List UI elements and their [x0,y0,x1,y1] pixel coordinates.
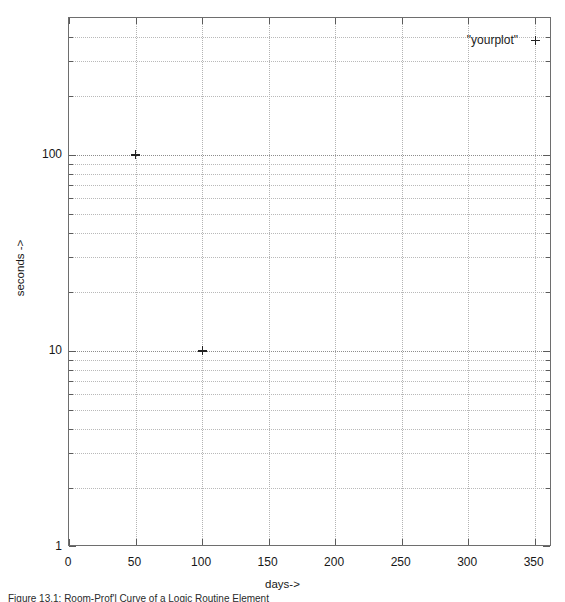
y-tick-minor-right [546,164,550,165]
gridline-horizontal-minor [69,164,550,165]
y-tick-major-right [543,546,550,547]
x-tick-top [269,18,270,24]
gridline-horizontal-minor [69,174,550,175]
y-tick-minor-right [546,453,550,454]
figure-caption: Figure 13.1: Room-Prof'l Curve of a Logi… [8,593,428,602]
x-tick-label: 300 [437,556,497,568]
gridline-horizontal-minor [69,453,550,454]
x-tick-label: 150 [238,556,298,568]
gridline-vertical [335,18,336,545]
gridline-horizontal-minor [69,292,550,293]
y-tick-minor [69,61,73,62]
legend: "yourplot" [467,33,540,47]
y-tick-minor [69,453,73,454]
y-tick-minor [69,381,73,382]
y-tick-minor-right [546,96,550,97]
gridline-vertical [402,18,403,545]
y-tick-minor-right [546,233,550,234]
y-tick-minor-right [546,360,550,361]
y-tick-label: 10 [6,344,62,356]
x-tick-bottom [269,539,270,545]
y-tick-minor [69,198,73,199]
data-point-plus-marker [131,150,140,159]
x-tick-top [69,18,70,24]
y-tick-minor-right [546,257,550,258]
gridline-horizontal-minor [69,429,550,430]
y-tick-major [69,351,76,352]
y-tick-label: 100 [6,148,62,160]
y-tick-minor [69,214,73,215]
y-tick-label: 1 [6,540,62,552]
gridline-horizontal-minor [69,381,550,382]
y-axis-title: seconds -> [14,213,26,323]
legend-entry-label: "yourplot" [467,33,518,47]
x-tick-label: 350 [504,556,564,568]
gridline-horizontal-minor [69,214,550,215]
gridline-vertical [136,18,137,545]
y-tick-minor-right [546,370,550,371]
x-axis-title: days-> [0,578,565,590]
gridline-vertical [535,18,536,545]
x-tick-label: 0 [38,556,98,568]
gridline-vertical [202,18,203,545]
y-tick-minor-right [546,410,550,411]
x-tick-label: 250 [371,556,431,568]
y-tick-minor [69,370,73,371]
data-point-plus-marker [198,346,207,355]
x-tick-label: 50 [105,556,165,568]
y-tick-minor [69,488,73,489]
gridline-horizontal-minor [69,394,550,395]
x-tick-top [402,18,403,24]
y-tick-minor-right [546,488,550,489]
y-tick-minor [69,96,73,97]
y-tick-minor [69,174,73,175]
y-tick-minor [69,360,73,361]
y-tick-major [69,155,76,156]
x-tick-label: 100 [171,556,231,568]
gridline-horizontal-minor [69,96,550,97]
y-tick-minor-right [546,198,550,199]
gridline-horizontal-minor [69,360,550,361]
figure-container: "yourplot" 110100 050100150200250300350 … [0,0,565,602]
gridline-horizontal-minor [69,233,550,234]
gridline-vertical [468,18,469,545]
x-tick-top [202,18,203,24]
y-tick-minor-right [546,61,550,62]
x-tick-bottom [335,539,336,545]
x-tick-bottom [468,539,469,545]
y-tick-major-right [543,351,550,352]
x-tick-label: 200 [304,556,364,568]
y-tick-minor [69,164,73,165]
gridline-horizontal-minor [69,61,550,62]
gridline-horizontal-minor [69,410,550,411]
x-tick-top [535,18,536,24]
gridline-horizontal-minor [69,198,550,199]
x-tick-bottom [69,539,70,545]
gridline-horizontal-minor [69,488,550,489]
y-tick-minor-right [546,185,550,186]
x-tick-top [335,18,336,24]
y-tick-minor [69,394,73,395]
x-tick-bottom [402,539,403,545]
y-tick-minor [69,257,73,258]
y-tick-minor-right [546,394,550,395]
gridline-horizontal-major [69,155,550,156]
plot-area: "yourplot" [68,17,551,546]
y-tick-minor [69,410,73,411]
gridline-vertical [269,18,270,545]
y-tick-minor-right [546,214,550,215]
y-tick-minor-right [546,174,550,175]
gridline-horizontal-minor [69,185,550,186]
gridline-horizontal-major [69,351,550,352]
x-tick-bottom [136,539,137,545]
y-tick-minor-right [546,381,550,382]
x-tick-top [468,18,469,24]
y-tick-major-right [543,155,550,156]
y-tick-minor [69,292,73,293]
y-tick-minor [69,429,73,430]
y-tick-minor [69,233,73,234]
gridline-horizontal-minor [69,370,550,371]
y-tick-major [69,546,76,547]
x-tick-top [136,18,137,24]
y-tick-minor-right [546,292,550,293]
